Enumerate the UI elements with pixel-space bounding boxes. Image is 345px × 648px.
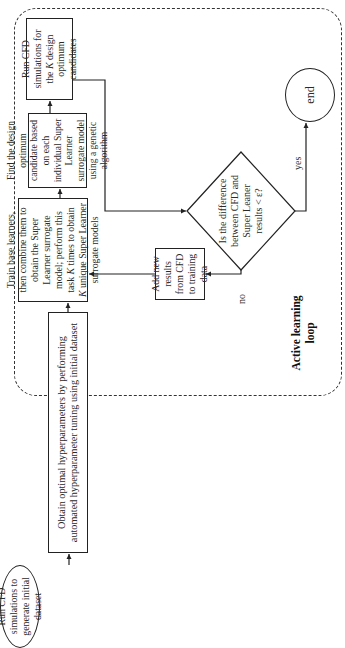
edge-label-yes: yes xyxy=(292,157,303,170)
flowchart-canvas: Run CFD simulations to generate initial … xyxy=(0,0,345,648)
loop-title: Active learning loop xyxy=(290,288,318,378)
node-end: end xyxy=(285,68,335,122)
decision-text: Is the difference between CFD and Super … xyxy=(200,172,282,250)
arrow-no-to-add-main xyxy=(206,270,241,274)
edge-label-no: no xyxy=(236,294,247,304)
